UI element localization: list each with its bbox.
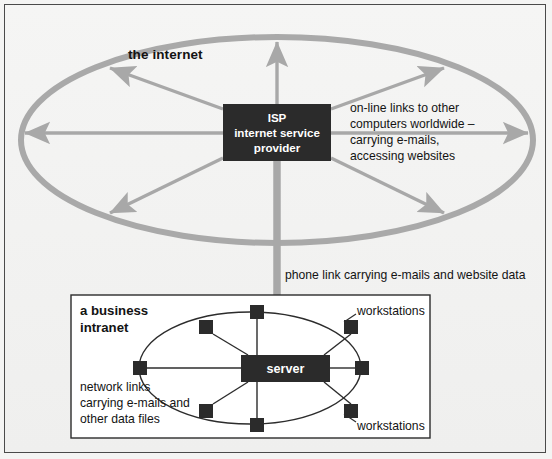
- workstations-label-bottom: workstations: [357, 418, 425, 434]
- internet-label: the internet: [128, 46, 203, 64]
- server-box-label: server: [241, 361, 330, 377]
- online-links-note: on-line links to other computers worldwi…: [350, 100, 475, 164]
- isp-box-label: ISP internet service provider: [223, 110, 331, 155]
- workstation-node: [355, 361, 369, 375]
- workstation-node: [133, 361, 147, 375]
- phone-link-label: phone link carrying e-mails and website …: [285, 267, 526, 283]
- diagram-canvas: the internet on-line links to other comp…: [0, 0, 552, 459]
- workstation-node: [250, 418, 264, 432]
- arrow-up-left: [110, 68, 223, 109]
- workstation-node: [250, 305, 264, 319]
- workstation-node: [199, 320, 213, 334]
- arrow-down-right: [331, 158, 444, 213]
- arrow-down-left: [110, 158, 223, 213]
- workstation-node: [199, 404, 213, 418]
- intranet-label: a business intranet: [80, 302, 148, 337]
- network-links-note: network links carrying e-mails and other…: [80, 379, 190, 427]
- workstations-label-top: workstations: [357, 303, 425, 319]
- workstation-node: [344, 320, 358, 334]
